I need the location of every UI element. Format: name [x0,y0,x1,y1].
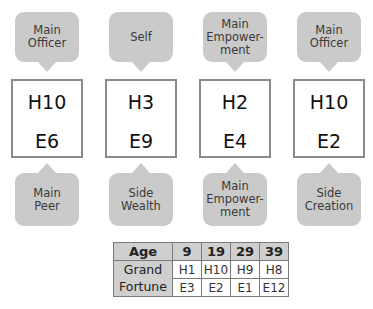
heavenly-stem: H3 [107,91,175,113]
top-callout-bubble: Self [109,12,173,62]
bottom-callout-line: ment [206,206,263,219]
earthly-cell: E3 [173,279,202,297]
age-cell: 19 [202,243,231,261]
top-callout-line: Self [130,31,152,44]
pillar-box: H3 E9 [105,79,177,158]
bottom-callout-line: Side [305,187,354,200]
bottom-callout-line: Peer [33,200,60,213]
table-header-row: Age 9 19 29 39 [114,243,289,261]
age-cell: 29 [231,243,260,261]
heavenly-stem: H10 [295,91,363,113]
earthly-cell: E12 [260,279,289,297]
top-callout-bubble: Main Officer [15,12,79,62]
bottom-callout-bubble: Main Peer [15,173,79,226]
row-label-grand: Grand [114,261,173,279]
bottom-callout-bubble: Side Wealth [109,173,173,226]
table-row-heavenly: Grand H1 H10 H9 H8 [114,261,289,279]
top-callout-line: Main [206,18,263,31]
top-callout-bubble: Main Officer [297,12,361,62]
earthly-branch: E2 [295,130,363,152]
earthly-branch: E9 [107,130,175,152]
pillar-box: H10 E2 [293,79,365,158]
heavenly-stem: H2 [201,91,269,113]
heavenly-cell: H1 [173,261,202,279]
grand-fortune-table: Age 9 19 29 39 Grand H1 H10 H9 H8 Fortun… [113,242,289,297]
age-cell: 39 [260,243,289,261]
bottom-callout-line: Side [121,187,161,200]
earthly-cell: E2 [202,279,231,297]
earthly-cell: E1 [231,279,260,297]
top-callout-line: Officer [28,37,66,50]
bottom-callout-line: Creation [305,200,354,213]
earthly-branch: E6 [13,130,81,152]
earthly-branch: E4 [201,130,269,152]
heavenly-stem: H10 [13,91,81,113]
pillar-column-4: Main Officer H10 E2 Side Creation [292,0,366,235]
pillar-column-1: Main Officer H10 E6 Main Peer [10,0,84,235]
row-label-fortune: Fortune [114,279,173,297]
pillar-box: H2 E4 [199,79,271,158]
bottom-callout-bubble: Main Empower- ment [203,173,267,226]
table-row-earthly: Fortune E3 E2 E1 E12 [114,279,289,297]
bottom-callout-line: Main [33,187,60,200]
heavenly-cell: H10 [202,261,231,279]
heavenly-cell: H9 [231,261,260,279]
pillar-box: H10 E6 [11,79,83,158]
top-callout-line: Officer [310,37,348,50]
pillar-column-2: Self H3 E9 Side Wealth [104,0,178,235]
heavenly-cell: H8 [260,261,289,279]
top-callout-bubble: Main Empower- ment [203,12,267,62]
age-header: Age [114,243,173,261]
bottom-callout-line: Wealth [121,200,161,213]
top-callout-line: Empower- [206,31,263,44]
pillar-column-3: Main Empower- ment H2 E4 Main Empower- m… [198,0,272,235]
top-callout-line: ment [206,44,263,57]
age-cell: 9 [173,243,202,261]
bottom-callout-bubble: Side Creation [297,173,361,226]
